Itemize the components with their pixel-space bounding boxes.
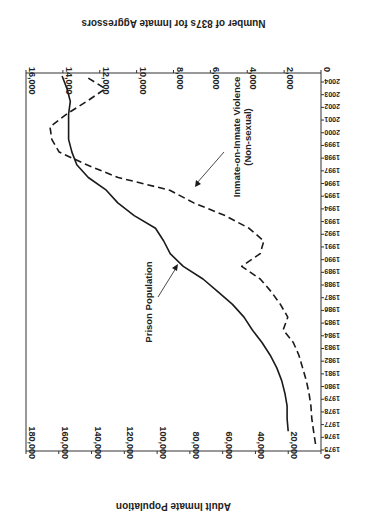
top-tick-label: 8,000 <box>175 67 185 90</box>
year-tick-label: 1996 <box>324 180 340 187</box>
year-tick-label: 1985 <box>324 319 340 326</box>
top-tick-label: 10,000 <box>138 67 148 95</box>
year-tick-label: 1993 <box>324 218 340 225</box>
prison-population-arrow <box>158 268 176 297</box>
year-tick-label: 2004 <box>324 78 340 85</box>
year-tick-label: 1977 <box>324 421 340 428</box>
arrowhead-icon <box>195 180 201 187</box>
year-tick-label: 2001 <box>324 116 340 123</box>
year-tick-label: 1983 <box>324 344 340 351</box>
primary-axis-title: Adult Inmate Population <box>116 501 231 512</box>
rotated-line-chart: 02,0004,0006,0008,00010,00012,00014,0001… <box>0 0 367 519</box>
secondary-axis-title: Number of 837s for Inmate Aggressors <box>81 18 266 29</box>
year-tick-label: 1998 <box>324 154 340 161</box>
violence-label-line1: Inmate-on-Inmate Violence <box>231 77 242 198</box>
year-tick-label: 1981 <box>324 370 340 377</box>
bottom-tick-label: 140,000 <box>93 426 103 459</box>
year-tick-label: 1976 <box>324 433 340 440</box>
year-tick-label: 1988 <box>324 281 340 288</box>
year-tick-label: 1987 <box>324 294 340 301</box>
year-tick-label: 1984 <box>324 332 340 339</box>
year-tick-label: 1994 <box>324 205 340 212</box>
year-tick-label: 1991 <box>324 243 340 250</box>
year-tick-label: 1986 <box>324 306 340 313</box>
year-tick-label: 1989 <box>324 268 340 275</box>
year-tick-label: 1992 <box>324 230 340 237</box>
bottom-tick-label: 120,000 <box>125 426 135 459</box>
bottom-tick-label: 100,000 <box>158 426 168 459</box>
violence-line <box>50 76 316 444</box>
year-tick-label: 1990 <box>324 256 340 263</box>
year-tick-label: 1980 <box>324 383 340 390</box>
bottom-tick-label: 20,000 <box>289 431 299 459</box>
year-tick-label: 1995 <box>324 192 340 199</box>
violence-label-line2: (Non-sexual) <box>242 108 253 166</box>
year-tick-label: 1997 <box>324 167 340 174</box>
prison-population-label: Prison Population <box>143 261 154 342</box>
bottom-tick-label: 80,000 <box>191 431 201 459</box>
year-tick-label: 1979 <box>324 395 340 402</box>
bottom-tick-label: 0 <box>322 454 332 459</box>
bottom-tick-label: 180,000 <box>27 426 37 459</box>
top-tick-label: 4,000 <box>248 67 258 90</box>
year-tick-label: 1978 <box>324 408 340 415</box>
year-tick-label: 1982 <box>324 357 340 364</box>
year-tick-label: 2000 <box>324 129 340 136</box>
bottom-tick-label: 60,000 <box>224 431 234 459</box>
bottom-tick-label: 40,000 <box>256 431 266 459</box>
top-tick-label: 14,000 <box>64 67 74 95</box>
top-tick-label: 0 <box>322 67 332 72</box>
year-tick-label: 2002 <box>324 103 340 110</box>
violence-arrow <box>197 152 224 183</box>
year-tick-label: 1999 <box>324 141 340 148</box>
bottom-tick-label: 160,000 <box>60 426 70 459</box>
year-tick-label: 2003 <box>324 91 340 98</box>
top-tick-label: 2,000 <box>285 67 295 90</box>
top-tick-label: 16,000 <box>27 67 37 95</box>
prison-population-line <box>62 76 288 431</box>
year-tick-label: 1975 <box>324 446 340 453</box>
top-tick-label: 6,000 <box>211 67 221 90</box>
